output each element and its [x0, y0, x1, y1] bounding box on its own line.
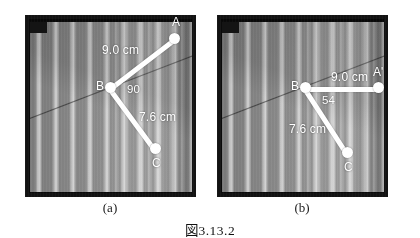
point-marker-b-a — [105, 82, 116, 93]
measurement-label-bc-b: 7.6 cm — [289, 123, 326, 135]
annotation-overlay-a: A B C 9.0 cm 7.6 cm 90 — [25, 15, 196, 197]
measurement-label-ba-b: 9.0 cm — [331, 71, 368, 83]
measurement-label-angle-a: 90 — [127, 83, 140, 95]
point-marker-a-a — [169, 33, 180, 44]
point-label-b-b: B — [291, 80, 299, 92]
measurement-label-ba-a: 9.0 cm — [102, 44, 139, 56]
measurement-label-angle-b: 54 — [322, 94, 335, 106]
point-label-a-a: A — [172, 16, 180, 28]
measurement-label-bc-a: 7.6 cm — [139, 111, 176, 123]
point-marker-c-b — [342, 147, 353, 158]
point-label-c-b: C — [344, 161, 353, 173]
annotation-overlay-b: A' B C 9.0 cm 7.6 cm 54 — [217, 15, 388, 197]
figure-3-13-2: A B C 9.0 cm 7.6 cm 90 A — [0, 0, 420, 238]
panel-caption-a: (a) — [80, 200, 140, 216]
point-marker-c-a — [150, 143, 161, 154]
segment-b-to-a-prime-b — [305, 87, 378, 92]
figure-caption: 図3.13.2 — [0, 219, 420, 238]
point-label-c-a: C — [152, 157, 161, 169]
panel-b-photograph: A' B C 9.0 cm 7.6 cm 54 — [217, 15, 388, 197]
point-label-b-a: B — [96, 80, 104, 92]
point-label-a-prime-b: A' — [373, 66, 383, 78]
point-marker-b-b — [300, 82, 311, 93]
point-marker-a-prime-b — [373, 82, 384, 93]
panel-a-photograph: A B C 9.0 cm 7.6 cm 90 — [25, 15, 196, 197]
panel-caption-b: (b) — [272, 200, 332, 216]
